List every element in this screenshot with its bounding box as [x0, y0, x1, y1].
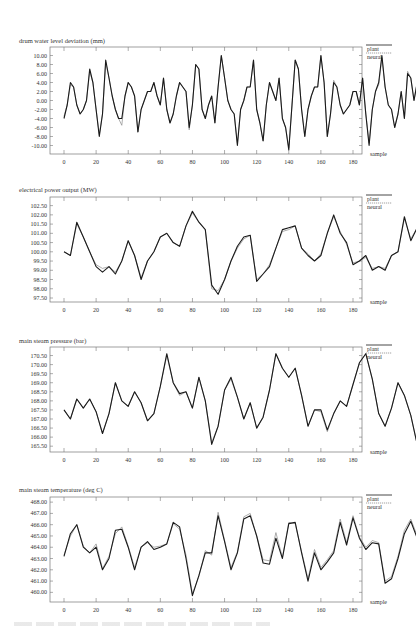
y-tick-label: 463.00	[31, 556, 48, 562]
y-tick-label: 464.00	[31, 544, 48, 550]
x-tick-label: 120	[252, 607, 261, 613]
x-tick-label: 100	[220, 607, 229, 613]
x-tick-label: 80	[189, 607, 195, 613]
x-tick-label: 60	[157, 607, 163, 613]
legend-plant-label: plant	[367, 496, 379, 502]
plot-area: 468.00467.00466.00465.00464.00463.00462.…	[0, 0, 416, 620]
x-axis-label: sample	[370, 599, 387, 605]
y-tick-label: 468.00	[31, 499, 48, 505]
series-plant-line	[64, 504, 416, 595]
series-neural-line	[64, 504, 416, 593]
legend-neural-label: neural	[367, 504, 382, 510]
figure-caption	[14, 622, 270, 626]
x-tick-label: 0	[63, 607, 66, 613]
legend: plantneural	[366, 495, 392, 510]
y-tick-label: 466.00	[31, 522, 48, 528]
x-tick-label: 160	[316, 607, 325, 613]
x-tick-label: 20	[93, 607, 99, 613]
y-tick-label: 460.00	[31, 589, 48, 595]
x-tick-label: 40	[125, 607, 131, 613]
chart-main-steam-temperature: main steam temperature (deg C) 468.00467…	[0, 0, 416, 620]
y-tick-label: 467.00	[31, 510, 48, 516]
y-tick-label: 462.00	[31, 567, 48, 573]
y-tick-label: 465.00	[31, 533, 48, 539]
x-tick-label: 140	[284, 607, 293, 613]
y-tick-label: 461.00	[31, 578, 48, 584]
x-tick-label: 180	[349, 607, 358, 613]
